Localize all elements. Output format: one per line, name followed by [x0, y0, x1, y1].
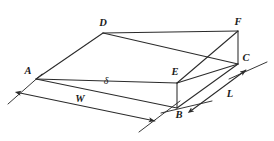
edge-A-D — [36, 33, 103, 79]
edge-B-C — [177, 64, 238, 108]
width-dimension-line — [20, 93, 155, 121]
geometry-drawing — [0, 0, 274, 141]
vertex-label-F: F — [234, 17, 241, 28]
edge-D-F — [103, 31, 238, 33]
dimension-lines-group — [20, 70, 246, 121]
vertex-label-A: A — [24, 66, 31, 77]
vertex-label-D: D — [99, 18, 107, 29]
extension-line-B-right — [161, 101, 212, 113]
extension-line-B-left — [139, 101, 180, 132]
dimension-label-width: W — [75, 94, 84, 105]
solid-edges-group — [36, 31, 238, 108]
vertex-label-E: E — [171, 67, 178, 78]
edge-E-C — [177, 64, 238, 83]
vertex-label-C: C — [242, 53, 249, 64]
edge-E-F — [177, 31, 238, 83]
dimension-label-length: L — [227, 89, 233, 100]
extension-line-A — [8, 74, 42, 104]
dimension-label-delta: δ — [104, 76, 109, 86]
geometry-figure: A B C D E F W L δ — [0, 0, 274, 141]
vertex-label-B: B — [175, 110, 182, 121]
